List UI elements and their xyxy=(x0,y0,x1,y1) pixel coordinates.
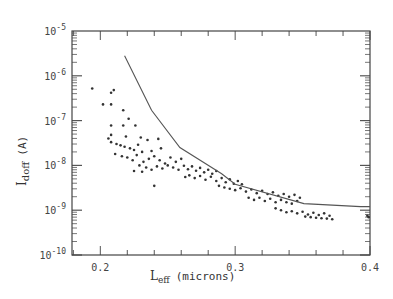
data-point xyxy=(301,211,304,214)
data-point xyxy=(193,177,196,180)
data-point xyxy=(288,195,291,198)
data-point xyxy=(114,153,117,156)
data-point xyxy=(138,164,141,167)
data-point xyxy=(146,139,149,142)
data-point xyxy=(241,183,244,186)
data-point xyxy=(199,167,202,170)
data-point xyxy=(133,149,136,152)
data-point xyxy=(141,151,144,154)
data-point xyxy=(150,168,153,171)
data-point xyxy=(122,124,125,127)
data-point xyxy=(153,155,156,158)
y-tick-label: 10-10 xyxy=(40,247,67,261)
x-axis-label-units: (microns) xyxy=(176,270,236,283)
data-point xyxy=(290,210,293,213)
data-point xyxy=(282,193,285,196)
data-point xyxy=(312,211,315,214)
data-point xyxy=(134,124,137,127)
data-point xyxy=(169,156,172,159)
data-point xyxy=(285,211,288,214)
x-axis-label-sub: eff xyxy=(158,275,170,285)
data-point xyxy=(187,168,190,171)
data-point xyxy=(223,186,226,189)
data-point xyxy=(123,146,126,149)
data-point xyxy=(115,143,118,146)
data-point xyxy=(110,141,113,144)
data-point xyxy=(156,165,159,168)
data-point xyxy=(255,192,258,195)
y-tick-label: 10-8 xyxy=(44,157,66,171)
y-axis-label-sub: doff xyxy=(20,161,31,181)
data-point xyxy=(110,91,113,94)
data-point xyxy=(315,216,318,219)
data-point xyxy=(195,169,198,172)
data-point xyxy=(129,147,132,150)
data-point xyxy=(122,109,125,112)
data-point xyxy=(161,167,164,170)
data-point xyxy=(274,201,277,204)
data-point xyxy=(157,138,160,141)
y-tick-label: 10-6 xyxy=(44,68,66,82)
data-point xyxy=(215,180,218,183)
data-point xyxy=(331,218,334,221)
data-point xyxy=(211,172,214,175)
data-point xyxy=(203,171,206,174)
data-point xyxy=(148,158,151,161)
data-point xyxy=(133,170,136,173)
data-point xyxy=(272,191,275,194)
y-tick-label: 10-9 xyxy=(44,202,66,216)
data-point xyxy=(199,175,202,178)
data-point xyxy=(328,214,331,217)
data-point xyxy=(139,136,142,139)
data-point xyxy=(269,197,272,200)
data-point xyxy=(183,164,186,167)
data-point xyxy=(245,190,248,193)
data-point xyxy=(126,156,129,159)
y-tick-labels: 10-510-610-710-810-910-10 xyxy=(40,23,67,261)
data-point xyxy=(253,199,256,202)
y-tick-label: 10-5 xyxy=(44,23,66,37)
data-point xyxy=(158,159,161,162)
data-point xyxy=(224,181,227,184)
data-point xyxy=(367,216,370,219)
data-point xyxy=(304,215,307,218)
data-point xyxy=(160,147,163,150)
x-tick-label: 0.2 xyxy=(91,262,109,273)
data-point xyxy=(164,162,167,165)
data-point xyxy=(228,188,231,191)
x-axis-label-main: L xyxy=(150,269,158,283)
data-point xyxy=(141,170,144,173)
x-axis-label: Leff(microns) xyxy=(150,269,235,285)
data-point xyxy=(110,134,113,137)
data-point xyxy=(177,168,180,171)
y-tick-label: 10-7 xyxy=(44,113,66,127)
data-point xyxy=(220,177,223,180)
data-point xyxy=(307,213,310,216)
data-point xyxy=(125,135,128,138)
data-point xyxy=(237,180,240,183)
data-point xyxy=(110,103,113,106)
data-point xyxy=(247,196,250,199)
data-point xyxy=(107,137,110,140)
data-point xyxy=(166,164,169,167)
data-point xyxy=(234,189,237,192)
data-point xyxy=(113,89,116,92)
data-point xyxy=(299,196,302,199)
y-axis-label: Idoff(A) xyxy=(15,136,31,186)
data-point xyxy=(218,185,221,188)
data-point xyxy=(180,158,183,161)
data-point xyxy=(293,194,296,197)
upper-bound-line xyxy=(125,56,370,207)
x-tick-label: 0.4 xyxy=(361,262,379,273)
data-point xyxy=(285,201,288,204)
data-point xyxy=(274,207,277,210)
data-point xyxy=(239,187,242,190)
data-point xyxy=(142,161,145,164)
data-point xyxy=(264,200,267,203)
data-point xyxy=(309,216,312,219)
data-point xyxy=(145,166,148,169)
scatter-points xyxy=(91,87,370,220)
data-point xyxy=(317,214,320,217)
data-point xyxy=(207,168,210,171)
data-point xyxy=(184,176,187,179)
